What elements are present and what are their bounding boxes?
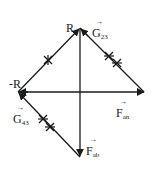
tick-mark-R — [44, 55, 52, 65]
label-G23-main: G — [92, 27, 101, 39]
label-R: R — [66, 22, 74, 34]
vector-diagram — [0, 0, 155, 176]
tick-mark-G43-2 — [45, 123, 55, 131]
label-G43-main: G — [13, 113, 22, 125]
label-Fab-sub: ab — [93, 151, 100, 159]
label-G23: G23 — [92, 27, 108, 41]
tick-mark-G23-1 — [104, 52, 114, 60]
label-neg-R: -R — [9, 78, 21, 90]
vector-G23 — [80, 28, 144, 92]
label-G23-sub: 23 — [101, 33, 108, 41]
label-G43-sub: 43 — [22, 119, 29, 127]
label-Fan-main: F — [116, 107, 123, 119]
vector-G23-tip — [81, 29, 88, 36]
label-Fan: Fan — [116, 107, 129, 121]
label-Fab-main: F — [86, 145, 93, 157]
tick-mark-G43-1 — [38, 115, 48, 123]
label-G43: G43 — [13, 113, 29, 127]
label-Fab: Fab — [86, 145, 99, 159]
label-Fan-sub: an — [123, 113, 130, 121]
